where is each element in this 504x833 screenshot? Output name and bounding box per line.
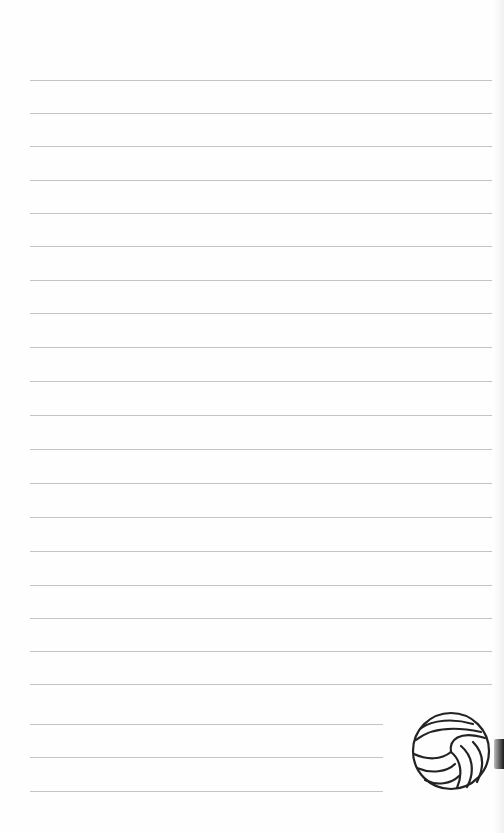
ruled-line (30, 415, 492, 416)
edge-tab (494, 739, 504, 769)
ruled-line (30, 381, 492, 382)
notepaper-page (0, 0, 504, 833)
ruled-line (30, 483, 492, 484)
show-through-text (10, 2, 490, 16)
ruled-line (30, 280, 492, 281)
ruled-line (30, 517, 492, 518)
short-ruled-line (30, 791, 383, 792)
ruled-line (30, 651, 492, 652)
ruled-line (30, 449, 492, 450)
ruled-line (30, 684, 492, 685)
ruled-line (30, 585, 492, 586)
page-edge-shadow (494, 0, 504, 833)
ruled-line (30, 80, 492, 81)
ruled-line (30, 347, 492, 348)
ruled-line (30, 551, 492, 552)
ruled-line (30, 113, 492, 114)
ruled-line (30, 246, 492, 247)
short-ruled-line (30, 724, 383, 725)
ruled-line (30, 618, 492, 619)
short-ruled-line (30, 757, 383, 758)
ruled-line (30, 146, 492, 147)
ruled-line (30, 313, 492, 314)
volleyball-icon (411, 710, 491, 792)
ruled-line (30, 213, 492, 214)
ruled-line (30, 180, 492, 181)
